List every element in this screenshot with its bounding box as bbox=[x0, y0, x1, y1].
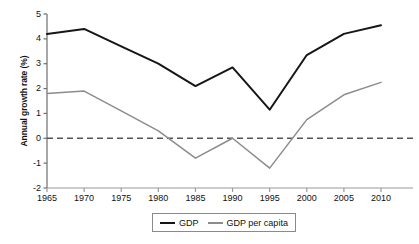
data-series bbox=[47, 25, 381, 168]
line-chart: Annual growth rate (%) 543210-1-2 196519… bbox=[0, 0, 419, 244]
legend-label-gdp-per-capita: GDP per capita bbox=[227, 218, 288, 228]
plot-area bbox=[0, 0, 419, 244]
chart-legend: GDP GDP per capita bbox=[152, 213, 296, 232]
legend-swatch-gdp-per-capita-icon bbox=[208, 222, 223, 224]
legend-item-gdp-per-capita: GDP per capita bbox=[208, 218, 288, 228]
legend-item-gdp: GDP bbox=[160, 218, 199, 228]
legend-label-gdp: GDP bbox=[179, 218, 199, 228]
legend-swatch-gdp-icon bbox=[160, 222, 175, 224]
